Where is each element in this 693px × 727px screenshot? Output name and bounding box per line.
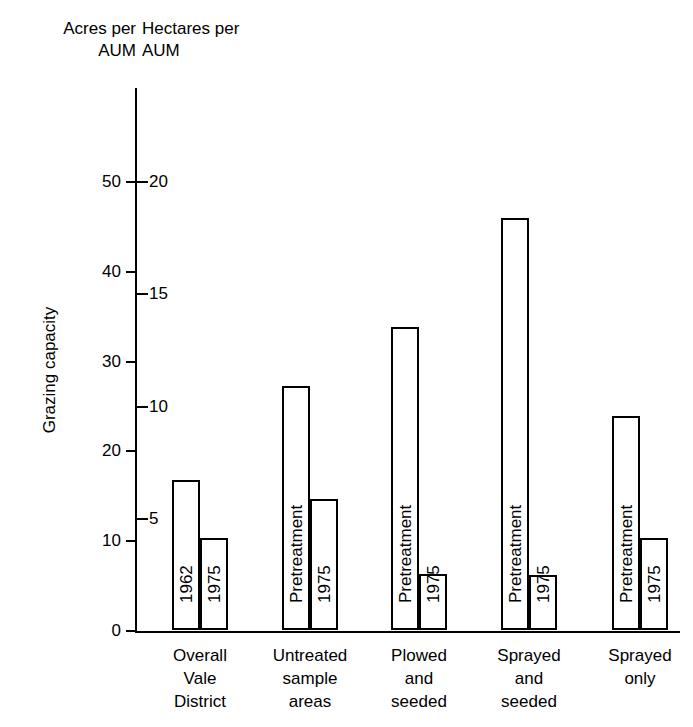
bar: Pretreatment: [282, 386, 310, 630]
inner-tick-mark: [137, 406, 148, 408]
category-label: Overall Vale District: [145, 644, 255, 713]
bar-label: 1975: [206, 565, 223, 603]
left-tick-label: 20: [51, 442, 121, 459]
category-label: Untreated sample areas: [255, 644, 365, 713]
inner-axis-header: Hectares per AUM: [142, 18, 312, 62]
bar-label: 1975: [316, 565, 333, 603]
bar: 1975: [200, 538, 228, 630]
bar: 1975: [419, 574, 447, 630]
left-tick-label: 0: [51, 622, 121, 639]
bar: 1975: [529, 575, 557, 630]
left-axis-header: Acres per AUM: [26, 18, 136, 62]
left-tick-mark: [126, 450, 137, 452]
left-tick-mark: [126, 361, 137, 363]
grazing-capacity-bar-chart: Acres per AUM Hectares per AUM Grazing c…: [0, 0, 693, 727]
bar: 1975: [640, 538, 668, 630]
bar-label: Pretreatment: [618, 505, 635, 603]
bar-label: Pretreatment: [288, 505, 305, 603]
inner-tick-label: 15: [149, 285, 199, 302]
bar: 1962: [172, 480, 200, 630]
inner-tick-mark: [137, 293, 148, 295]
inner-tick-label: 20: [149, 173, 199, 190]
bar-label: 1975: [535, 565, 552, 603]
bar: 1975: [310, 499, 338, 630]
left-tick-mark: [126, 540, 137, 542]
left-tick-label: 30: [51, 353, 121, 370]
bar: Pretreatment: [612, 416, 640, 630]
bar-label: Pretreatment: [507, 505, 524, 603]
category-label: Sprayed only: [585, 644, 693, 690]
left-tick-label: 10: [51, 532, 121, 549]
plot-area: 01020304050 5101520 19621975Pretreatment…: [135, 88, 680, 632]
x-axis-line: [135, 631, 680, 633]
bar-label: 1962: [178, 565, 195, 603]
left-tick-mark: [126, 181, 137, 183]
bar-label: Pretreatment: [397, 505, 414, 603]
left-tick-mark: [126, 271, 137, 273]
left-tick-mark: [126, 630, 137, 632]
bar: Pretreatment: [501, 218, 529, 630]
inner-tick-mark: [137, 518, 148, 520]
category-label: Plowed and seeded: [364, 644, 474, 713]
bar: Pretreatment: [391, 327, 419, 630]
category-label: Sprayed and seeded: [474, 644, 584, 713]
left-tick-label: 50: [51, 173, 121, 190]
left-tick-label: 40: [51, 263, 121, 280]
bar-label: 1975: [646, 565, 663, 603]
inner-tick-label: 10: [149, 398, 199, 415]
bar-label: 1975: [425, 565, 442, 603]
inner-tick-mark: [137, 181, 148, 183]
